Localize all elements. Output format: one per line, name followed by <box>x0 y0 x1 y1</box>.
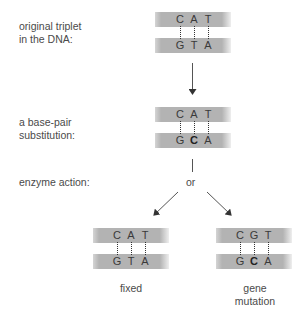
arrow-down-left-icon <box>154 192 178 215</box>
arrow-down-right-icon <box>207 192 231 215</box>
arrows <box>0 0 307 318</box>
